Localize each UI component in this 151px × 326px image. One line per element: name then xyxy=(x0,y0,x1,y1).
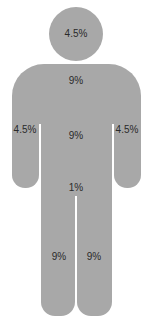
left-leg-label: 9% xyxy=(52,252,66,262)
head-label: 4.5% xyxy=(65,29,88,39)
groin-label: 1% xyxy=(69,183,83,193)
chest-label: 9% xyxy=(69,76,83,86)
right-leg-label: 9% xyxy=(87,252,101,262)
right-arm-label: 4.5% xyxy=(116,125,139,135)
abdomen-label: 9% xyxy=(69,131,83,141)
left-arm-region xyxy=(12,110,39,188)
right-arm-region xyxy=(114,110,141,188)
left-arm-label: 4.5% xyxy=(14,125,37,135)
